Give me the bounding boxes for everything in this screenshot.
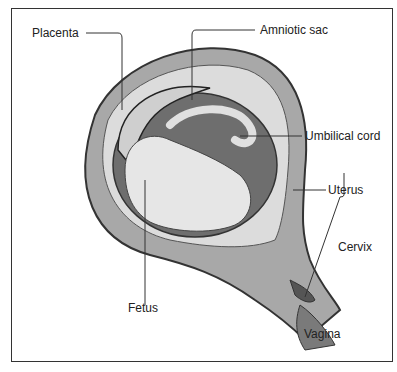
amniotic-sac-label: Amniotic sac bbox=[260, 24, 328, 36]
uterus-label: Uterus bbox=[328, 184, 363, 196]
cervix-label: Cervix bbox=[338, 241, 372, 253]
placenta-label: Placenta bbox=[32, 27, 79, 39]
vagina-label: Vagina bbox=[304, 328, 340, 340]
fetus-label: Fetus bbox=[128, 302, 158, 314]
umbilical-cord-label: Umbilical cord bbox=[305, 130, 380, 142]
